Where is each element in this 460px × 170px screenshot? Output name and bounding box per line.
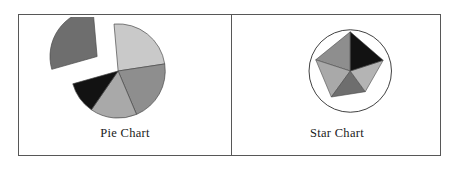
pie-slice bbox=[114, 24, 165, 71]
figure-frame: Pie Chart Star Chart bbox=[18, 14, 441, 156]
figure-root: Pie Chart Star Chart bbox=[0, 0, 460, 170]
panel-pie-chart: Pie Chart bbox=[19, 15, 231, 155]
panel-star-chart: Star Chart bbox=[231, 15, 442, 155]
pie-chart-caption: Pie Chart bbox=[19, 126, 231, 141]
star-chart-svg bbox=[232, 17, 442, 125]
pie-slice-group bbox=[50, 17, 165, 118]
star-sector-group bbox=[316, 32, 383, 97]
star-chart-caption: Star Chart bbox=[232, 126, 442, 141]
pie-slice bbox=[50, 17, 97, 69]
pie-chart-figure bbox=[19, 17, 231, 125]
pie-chart-svg bbox=[19, 17, 231, 125]
star-chart-figure bbox=[232, 17, 442, 125]
